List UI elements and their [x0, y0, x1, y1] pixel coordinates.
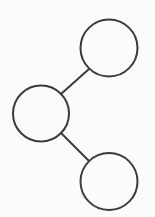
diagram-svg: [0, 0, 155, 217]
diagram-canvas: [0, 0, 155, 217]
